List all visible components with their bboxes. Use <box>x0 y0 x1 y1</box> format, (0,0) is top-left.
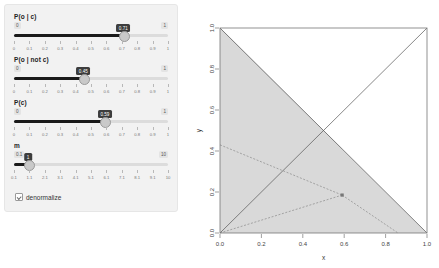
slider-tick-label: 0.7 <box>119 88 125 95</box>
x-tick-label: 0.4 <box>299 241 308 247</box>
slider-max-label: 10 <box>159 151 168 158</box>
slider-tick <box>91 170 92 173</box>
slider-p-c[interactable]: P(c)010.5900.10.20.30.40.50.60.70.80.91 <box>14 99 168 138</box>
slider-tick-label: 0 <box>13 45 15 52</box>
slider-tick <box>29 84 30 87</box>
slider-tick-label: 4.1 <box>73 174 79 181</box>
slider-tick <box>137 170 138 173</box>
slider-endlabels: 0.110 <box>14 151 168 159</box>
slider-tick-label: 0.5 <box>88 88 94 95</box>
slider-tick-label: 1 <box>167 88 169 95</box>
slider-tick <box>14 84 15 87</box>
slider-tick <box>168 170 169 173</box>
plot-area: 0.00.20.40.60.81.00.00.20.40.60.81.0xy <box>190 0 439 268</box>
slider-track[interactable] <box>14 163 168 166</box>
slider-tick <box>60 170 61 173</box>
slider-tick <box>122 41 123 44</box>
slider-track-wrap[interactable]: 0.59 <box>14 116 168 127</box>
slider-tick <box>60 41 61 44</box>
slider-tick <box>14 127 15 130</box>
slider-endlabels: 01 <box>14 22 168 30</box>
x-tick-label: 0.8 <box>381 241 390 247</box>
slider-tick <box>137 84 138 87</box>
slider-max-label: 1 <box>161 22 168 29</box>
slider-tick-label: 2.1 <box>42 174 48 181</box>
slider-tick <box>14 170 15 173</box>
plot-svg: 0.00.20.40.60.81.00.00.20.40.60.81.0xy <box>190 0 439 268</box>
slider-tick <box>60 84 61 87</box>
slider-tick-label: 0.9 <box>150 88 156 95</box>
slider-label: P(o | c) <box>14 13 168 21</box>
denormalize-checkbox-row[interactable]: denormalize <box>15 193 61 201</box>
slider-tick-labels: 00.10.20.30.40.50.60.70.80.91 <box>14 45 168 52</box>
slider-track-wrap[interactable]: 0.71 <box>14 30 168 41</box>
slider-tick <box>168 84 169 87</box>
slider-max-label: 1 <box>161 108 168 115</box>
slider-tick-label: 1 <box>167 45 169 52</box>
slider-label: m <box>14 142 168 150</box>
slider-min-label: 0 <box>14 108 21 115</box>
slider-track-wrap[interactable]: 0.45 <box>14 73 168 84</box>
slider-tick-label: 0.5 <box>88 131 94 138</box>
denormalize-label: denormalize <box>26 194 61 201</box>
slider-tick-label: 0.3 <box>57 131 63 138</box>
slider-tick-label: 0.6 <box>103 45 109 52</box>
slider-tick-label: 0.2 <box>42 131 48 138</box>
slider-tick-label: 7.1 <box>119 174 125 181</box>
y-tick-label: 0.8 <box>209 64 215 73</box>
slider-tick-label: 0.7 <box>119 131 125 138</box>
slider-tick-label: 0.6 <box>103 88 109 95</box>
slider-tick-label: 0.2 <box>42 88 48 95</box>
slider-tick <box>153 41 154 44</box>
slider-tick <box>45 41 46 44</box>
slider-tick <box>76 41 77 44</box>
slider-tick-label: 6.1 <box>103 174 109 181</box>
slider-tick <box>153 127 154 130</box>
slider-fill <box>14 77 83 80</box>
slider-tick <box>14 41 15 44</box>
y-tick-label: 0.2 <box>209 187 215 196</box>
slider-m[interactable]: m0.11010.11.12.13.14.15.16.17.18.19.110 <box>14 142 168 181</box>
y-tick-label: 0.6 <box>209 105 215 114</box>
slider-tick-label: 0.9 <box>150 45 156 52</box>
slider-tick <box>122 170 123 173</box>
slider-tick-label: 1 <box>167 131 169 138</box>
slider-p-o-given-c[interactable]: P(o | c)010.7100.10.20.30.40.50.60.70.80… <box>14 13 168 52</box>
x-tick-label: 0.6 <box>340 241 349 247</box>
slider-endlabels: 01 <box>14 108 168 116</box>
slider-tick <box>122 127 123 130</box>
slider-tick <box>76 127 77 130</box>
slider-tick <box>168 41 169 44</box>
slider-tick-label: 0 <box>13 88 15 95</box>
slider-tick-label: 0.5 <box>88 45 94 52</box>
slider-track-wrap[interactable]: 1 <box>14 159 168 170</box>
slider-tick <box>29 41 30 44</box>
slider-tick <box>45 84 46 87</box>
app-root: P(o | c)010.7100.10.20.30.40.50.60.70.80… <box>0 0 439 268</box>
slider-tick <box>106 41 107 44</box>
slider-tick-label: 0.6 <box>103 131 109 138</box>
slider-tick-label: 0.2 <box>42 45 48 52</box>
slider-tick <box>106 84 107 87</box>
slider-tick-label: 0.1 <box>11 174 17 181</box>
slider-tick-label: 0.8 <box>134 131 140 138</box>
slider-tick-label: 0.8 <box>134 88 140 95</box>
slider-tick-label: 0.4 <box>73 88 79 95</box>
slider-p-o-given-not-c[interactable]: P(o | not c)010.4500.10.20.30.40.50.60.7… <box>14 56 168 95</box>
slider-tick <box>106 170 107 173</box>
slider-tick-label: 0.3 <box>57 88 63 95</box>
slider-tick <box>91 127 92 130</box>
slider-tick <box>153 84 154 87</box>
slider-tick-labels: 00.10.20.30.40.50.60.70.80.91 <box>14 88 168 95</box>
slider-tick-label: 0 <box>13 131 15 138</box>
slider-label: P(c) <box>14 99 168 107</box>
slider-tick-label: 10 <box>166 174 171 181</box>
slider-tick-label: 0.9 <box>150 131 156 138</box>
slider-tick-label: 1.1 <box>26 174 32 181</box>
checkmark-icon[interactable] <box>15 193 23 201</box>
slider-tick-labels: 0.11.12.13.14.15.16.17.18.19.110 <box>14 174 168 181</box>
slider-tick <box>137 127 138 130</box>
slider-tick <box>76 170 77 173</box>
x-axis-label: x <box>322 254 326 261</box>
slider-tick-label: 0.3 <box>57 45 63 52</box>
